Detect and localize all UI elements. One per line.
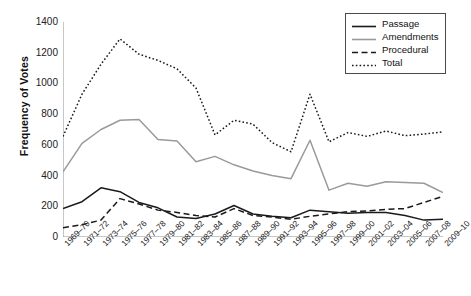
y-tick-label: 400	[24, 170, 58, 181]
legend-label: Amendments	[382, 31, 439, 42]
series-line-passage	[63, 188, 443, 220]
legend-item-procedural[interactable]: Procedural	[351, 43, 439, 56]
legend-swatch-icon	[351, 31, 377, 42]
y-tick-label: 0	[24, 231, 58, 242]
y-tick-label: 600	[24, 139, 58, 150]
legend-swatch-icon	[351, 44, 377, 55]
y-tick-label: 1200	[24, 47, 58, 58]
legend-item-total[interactable]: Total	[351, 56, 439, 69]
legend-label: Total	[382, 57, 402, 68]
series-line-amendments	[63, 120, 443, 193]
chart-legend: PassageAmendmentsProceduralTotal	[345, 13, 446, 74]
legend-label: Procedural	[382, 44, 428, 55]
legend-item-passage[interactable]: Passage	[351, 17, 439, 30]
y-tick-label: 200	[24, 200, 58, 211]
legend-swatch-icon	[351, 18, 377, 29]
y-tick-label: 1000	[24, 77, 58, 88]
legend-swatch-icon	[351, 57, 377, 68]
y-axis-tick-labels: 0200400600800100012001400	[24, 0, 58, 296]
y-tick-label: 1400	[24, 16, 58, 27]
legend-label: Passage	[382, 18, 419, 29]
legend-item-amendments[interactable]: Amendments	[351, 30, 439, 43]
x-axis-tick-labels: 1969–701971–721973–741975–761977–781979–…	[63, 237, 443, 296]
line-chart: Frequency of Votes 020040060080010001200…	[0, 0, 471, 296]
y-tick-label: 800	[24, 108, 58, 119]
